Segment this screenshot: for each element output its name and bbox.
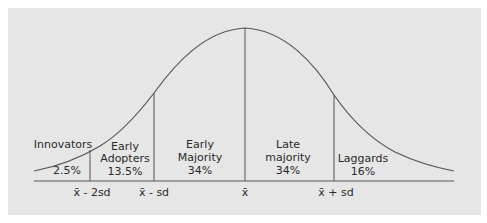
segment-early-majority-label-2: Majority bbox=[178, 151, 223, 164]
bell-curve bbox=[34, 28, 454, 171]
tick-mean: x̄ bbox=[242, 186, 249, 199]
segment-late-majority-percent: 34% bbox=[276, 164, 300, 177]
bell-curve-diagram: Innovators 2.5% Early Adopters 13.5% Ear… bbox=[0, 0, 487, 223]
segment-late-majority-label-2: majority bbox=[265, 151, 311, 164]
tick-mean-minus-sd: x̄ - sd bbox=[139, 186, 169, 199]
tick-mean-plus-sd: x̄ + sd bbox=[318, 186, 353, 199]
segment-innovators-percent: 2.5% bbox=[53, 164, 81, 177]
segment-laggards-label: Laggards bbox=[338, 152, 389, 165]
segment-early-adopters-label-2: Adopters bbox=[100, 152, 150, 165]
segment-innovators-label: Innovators bbox=[34, 138, 93, 151]
segment-early-majority-percent: 34% bbox=[188, 164, 212, 177]
segment-laggards-percent: 16% bbox=[351, 165, 375, 178]
segment-late-majority-label-1: Late bbox=[276, 138, 300, 151]
tick-mean-minus-2sd: x̄ - 2sd bbox=[73, 186, 110, 199]
segment-early-adopters-percent: 13.5% bbox=[108, 165, 143, 178]
segment-early-majority-label-1: Early bbox=[186, 138, 214, 151]
